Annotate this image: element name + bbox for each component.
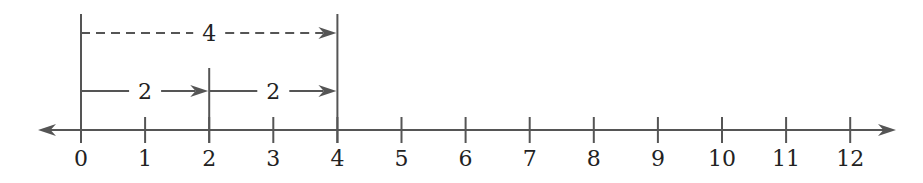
tick-label: 0 bbox=[74, 146, 88, 171]
tick-label: 6 bbox=[459, 146, 473, 171]
tick-label: 3 bbox=[266, 146, 280, 171]
tick-label: 2 bbox=[202, 146, 216, 171]
tick-label: 4 bbox=[330, 146, 344, 171]
number-line-canvas: 0123456789101112224 bbox=[0, 0, 923, 183]
number-line-diagram: 0123456789101112224 bbox=[0, 0, 923, 183]
tick-label: 7 bbox=[523, 146, 537, 171]
jump-label: 2 bbox=[138, 79, 152, 104]
tick-label: 12 bbox=[836, 146, 864, 171]
jump-label: 2 bbox=[266, 79, 280, 104]
tick-label: 11 bbox=[772, 146, 800, 171]
tick-label: 9 bbox=[651, 146, 665, 171]
tick-label: 8 bbox=[587, 146, 601, 171]
tick-label: 10 bbox=[708, 146, 736, 171]
tick-label: 5 bbox=[395, 146, 409, 171]
tick-label: 1 bbox=[138, 146, 152, 171]
jump-label: 4 bbox=[202, 21, 216, 46]
